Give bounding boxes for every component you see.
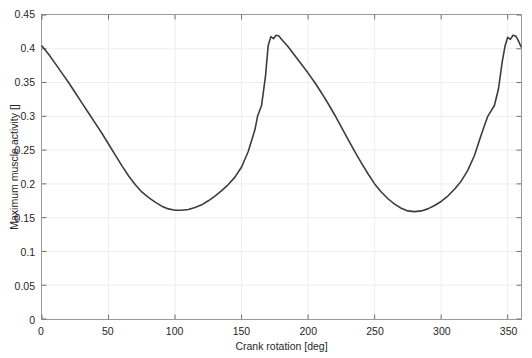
data-series-line bbox=[42, 15, 521, 319]
figure-canvas: 00.050.10.150.20.250.30.350.40.45 050100… bbox=[0, 0, 532, 358]
x-tick-label: 250 bbox=[350, 326, 400, 337]
x-tick-label: 300 bbox=[417, 326, 467, 337]
x-tick-label: 150 bbox=[216, 326, 266, 337]
x-tick-label: 0 bbox=[16, 326, 66, 337]
y-axis-title: Maximum muscle activity [] bbox=[8, 14, 22, 320]
x-tick-label: 350 bbox=[484, 326, 532, 337]
x-tick-label: 100 bbox=[150, 326, 200, 337]
x-axis-title: Crank rotation [deg] bbox=[41, 340, 522, 352]
x-tick-label: 200 bbox=[283, 326, 333, 337]
x-tick-label: 50 bbox=[83, 326, 133, 337]
plot-area bbox=[41, 14, 522, 320]
